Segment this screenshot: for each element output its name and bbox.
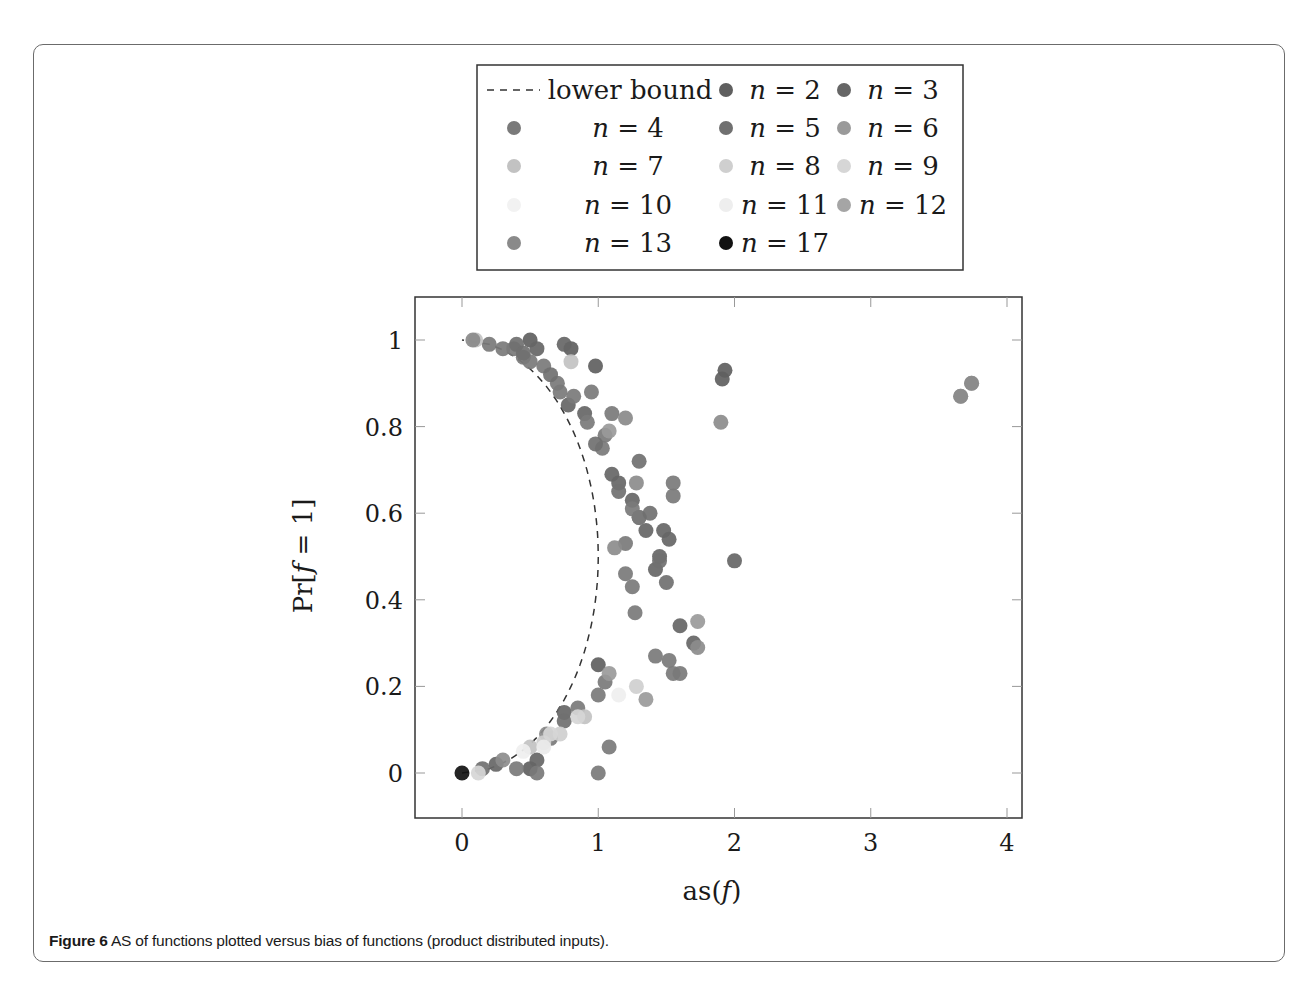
legend-label: n = 13	[584, 228, 672, 258]
marker-dot-icon	[719, 198, 733, 212]
marker-dot-icon	[837, 198, 851, 212]
data-point	[591, 688, 606, 703]
data-point	[557, 337, 572, 352]
data-point	[964, 376, 979, 391]
data-point	[666, 488, 681, 503]
marker-dot-icon	[719, 83, 733, 97]
caption-label: Figure 6	[49, 932, 108, 949]
data-point	[509, 761, 524, 776]
legend-label: n = 5	[749, 113, 821, 143]
data-point	[570, 709, 585, 724]
data-point	[713, 415, 728, 430]
y-tick-label: 0.2	[365, 673, 403, 701]
data-point	[628, 605, 643, 620]
data-point	[659, 575, 674, 590]
data-point	[607, 540, 622, 555]
data-point	[455, 766, 470, 781]
data-point	[564, 354, 579, 369]
data-point	[591, 766, 606, 781]
data-point	[602, 666, 617, 681]
data-point	[543, 367, 558, 382]
marker-dot-icon	[837, 159, 851, 173]
legend-label: n = 3	[867, 75, 939, 105]
plot-area: 0123400.20.40.60.81	[365, 297, 1022, 857]
data-point	[465, 333, 480, 348]
data-point	[602, 423, 617, 438]
data-point	[553, 384, 568, 399]
legend: lower boundn = 2n = 3n = 4n = 5n = 6n = …	[477, 65, 963, 270]
data-point	[690, 614, 705, 629]
data-point	[482, 337, 497, 352]
data-point	[673, 666, 688, 681]
y-tick-label: 0	[388, 760, 403, 788]
y-tick-label: 1	[388, 327, 403, 355]
legend-label: lower bound	[548, 75, 713, 105]
legend-label: n = 4	[592, 113, 664, 143]
x-tick-label: 2	[727, 829, 742, 857]
legend-label: n = 11	[741, 190, 829, 220]
x-tick-label: 0	[454, 829, 469, 857]
data-point	[566, 389, 581, 404]
x-tick-label: 1	[591, 829, 606, 857]
data-point	[471, 766, 486, 781]
marker-dot-icon	[719, 121, 733, 135]
data-point	[543, 727, 558, 742]
marker-dot-icon	[507, 236, 521, 250]
data-point	[666, 475, 681, 490]
scatter-chart: lower boundn = 2n = 3n = 4n = 5n = 6n = …	[0, 0, 1316, 1000]
data-point	[588, 436, 603, 451]
legend-label: n = 7	[592, 151, 664, 181]
data-point	[673, 618, 688, 633]
data-point	[618, 410, 633, 425]
data-point	[529, 753, 544, 768]
x-tick-label: 3	[863, 829, 878, 857]
data-point	[584, 384, 599, 399]
legend-label: n = 2	[749, 75, 821, 105]
data-point	[638, 692, 653, 707]
data-point	[643, 506, 658, 521]
data-point	[529, 766, 544, 781]
y-tick-label: 0.4	[365, 587, 403, 615]
data-point	[602, 740, 617, 755]
data-point	[516, 345, 531, 360]
y-axis-label: Pr[f = 1]	[288, 499, 318, 614]
data-point	[557, 714, 572, 729]
data-point	[690, 640, 705, 655]
figure-caption: Figure 6 AS of functions plotted versus …	[49, 932, 609, 950]
data-point	[495, 753, 510, 768]
data-point	[611, 688, 626, 703]
data-point	[536, 740, 551, 755]
x-axis-label: as(f)	[683, 876, 742, 906]
marker-dot-icon	[507, 159, 521, 173]
data-point	[662, 532, 677, 547]
marker-dot-icon	[507, 198, 521, 212]
data-point	[715, 371, 730, 386]
data-point	[629, 475, 644, 490]
data-point	[588, 358, 603, 373]
data-point	[618, 566, 633, 581]
data-point	[652, 553, 667, 568]
y-tick-label: 0.6	[365, 500, 403, 528]
data-point	[529, 341, 544, 356]
legend-label: n = 10	[584, 190, 672, 220]
data-point	[604, 406, 619, 421]
caption-text: AS of functions plotted versus bias of f…	[108, 932, 609, 949]
marker-dot-icon	[719, 159, 733, 173]
data-point	[727, 553, 742, 568]
marker-dot-icon	[507, 121, 521, 135]
y-tick-label: 0.8	[365, 414, 403, 442]
data-point	[629, 679, 644, 694]
data-point	[638, 523, 653, 538]
data-point	[662, 653, 677, 668]
legend-label: n = 9	[867, 151, 939, 181]
legend-label: n = 6	[867, 113, 939, 143]
data-point	[580, 415, 595, 430]
legend-label: n = 12	[859, 190, 947, 220]
x-tick-label: 4	[999, 829, 1014, 857]
data-point	[632, 454, 647, 469]
data-point	[953, 389, 968, 404]
marker-dot-icon	[837, 121, 851, 135]
data-point	[611, 484, 626, 499]
marker-dot-icon	[837, 83, 851, 97]
marker-dot-icon	[719, 236, 733, 250]
